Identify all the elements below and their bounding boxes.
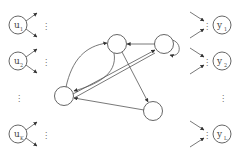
output-in-arrow bbox=[190, 12, 204, 21]
output-in-arrow bbox=[190, 29, 204, 38]
output-label-base: y bbox=[216, 56, 223, 66]
reservoir-node-B bbox=[155, 35, 174, 54]
output-label-sub: 2 bbox=[224, 62, 227, 68]
output-in-arrow bbox=[190, 138, 204, 147]
reservoir-node-A bbox=[108, 35, 127, 54]
output-node-y2: ⋮ y 2 bbox=[190, 48, 231, 74]
output-label-base: y bbox=[216, 20, 223, 30]
edge-C-B bbox=[73, 50, 155, 94]
output-label-sub: 1 bbox=[224, 26, 227, 32]
edge-D-C bbox=[74, 98, 144, 110]
input-out-arrow bbox=[26, 13, 37, 21]
input-label-sub: 2 bbox=[20, 62, 23, 68]
ellipsis-icon: ⋮ bbox=[203, 58, 211, 67]
edge-C-A bbox=[66, 43, 107, 87]
ellipsis-icon: ⋮ bbox=[42, 131, 50, 140]
input-out-arrow bbox=[26, 49, 37, 57]
input-label-sub: 1 bbox=[20, 26, 23, 32]
output-in-arrow bbox=[190, 121, 204, 130]
ellipsis-icon: ⋮ bbox=[203, 22, 211, 31]
input-node-uK: u K ⋮ bbox=[9, 122, 50, 146]
output-label-base: y bbox=[216, 129, 223, 139]
edge-A-C bbox=[74, 53, 114, 91]
input-label-sub: K bbox=[20, 135, 24, 141]
input-out-arrow bbox=[26, 65, 37, 73]
ellipsis-icon: ⋮ bbox=[42, 22, 50, 31]
inputs-ellipsis-icon: ⋮ bbox=[15, 94, 23, 103]
input-node-u2: u 2 ⋮ bbox=[9, 49, 50, 73]
outputs-ellipsis-icon: ⋮ bbox=[219, 94, 227, 103]
input-out-arrow bbox=[26, 29, 37, 37]
output-node-y1: ⋮ y 1 bbox=[190, 12, 231, 38]
ellipsis-icon: ⋮ bbox=[203, 131, 211, 140]
input-out-arrow bbox=[26, 122, 37, 130]
output-in-arrow bbox=[190, 65, 204, 74]
input-node-u1: u 1 ⋮ bbox=[9, 13, 50, 37]
input-out-arrow bbox=[26, 138, 37, 146]
reservoir-node-D bbox=[144, 102, 163, 121]
ellipsis-icon: ⋮ bbox=[42, 58, 50, 67]
output-node-yL: ⋮ y L bbox=[190, 121, 231, 147]
output-in-arrow bbox=[190, 48, 204, 57]
reservoir-node-C bbox=[55, 87, 74, 106]
network-diagram: u 1 ⋮ u 2 ⋮ ⋮ u K ⋮ ⋮ y 1 ⋮ y 2 ⋮ bbox=[0, 0, 239, 157]
